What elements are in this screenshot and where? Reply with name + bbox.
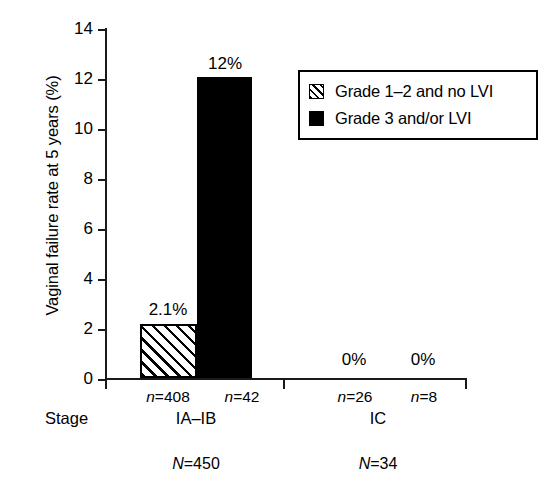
legend-label-grade3-or-lvi: Grade 3 and/or LVI — [335, 109, 471, 128]
total-value: =34 — [370, 455, 397, 472]
bar-iaib-grade3-or-lvi — [197, 77, 252, 378]
group-total-iaib: N=450 — [172, 455, 220, 473]
bar-value-label-ic-solid: 0% — [411, 350, 436, 370]
x-tick-left — [105, 380, 107, 389]
count-value: =26 — [346, 388, 372, 405]
bar-iaib-grade1-2-no-lvi — [140, 324, 197, 378]
count-value: =408 — [155, 388, 190, 405]
count-value: =8 — [419, 388, 437, 405]
y-tick-label-10: 10 — [74, 119, 93, 139]
x-axis-line — [105, 378, 467, 380]
count-label-iaib-hatched: n=408 — [146, 388, 190, 406]
count-var-n: n — [225, 388, 234, 405]
total-value: =450 — [184, 455, 220, 472]
bar-value-label-ic-hatched: 0% — [342, 350, 367, 370]
group-label-iaib: IA–IB — [176, 409, 216, 428]
y-tick-label-8: 8 — [84, 169, 93, 189]
count-label-iaib-solid: n=42 — [225, 388, 260, 406]
x-axis-title-stage: Stage — [45, 409, 88, 428]
legend-swatch-solid-icon — [309, 111, 324, 126]
count-var-n: n — [338, 388, 347, 405]
legend: Grade 1–2 and no LVI Grade 3 and/or LVI — [298, 70, 538, 140]
count-label-ic-hatched: n=26 — [338, 388, 373, 406]
bar-value-label-iaib-hatched: 2.1% — [149, 300, 188, 320]
group-label-ic: IC — [370, 409, 387, 428]
y-tick-label-2: 2 — [84, 319, 93, 339]
y-tick-label-12: 12 — [74, 69, 93, 89]
count-var-n: n — [146, 388, 155, 405]
x-tick-right — [465, 380, 467, 389]
legend-item-grade1-2-no-lvi[interactable]: Grade 1–2 and no LVI — [309, 79, 527, 103]
bar-value-label-iaib-solid: 12% — [208, 54, 242, 74]
legend-label-grade1-2-no-lvi: Grade 1–2 and no LVI — [335, 82, 493, 101]
y-axis-line — [105, 28, 107, 380]
x-tick-group-divider — [283, 380, 285, 389]
group-total-ic: N=34 — [359, 455, 398, 473]
y-tick-label-6: 6 — [84, 219, 93, 239]
y-tick-label-14: 14 — [74, 19, 93, 39]
count-label-ic-solid: n=8 — [411, 388, 437, 406]
total-var-N: N — [359, 455, 371, 472]
total-var-N: N — [172, 455, 184, 472]
count-var-n: n — [411, 388, 420, 405]
y-tick-label-0: 0 — [84, 369, 93, 389]
count-value: =42 — [233, 388, 259, 405]
legend-item-grade3-or-lvi[interactable]: Grade 3 and/or LVI — [309, 106, 527, 130]
y-tick-label-4: 4 — [84, 269, 93, 289]
y-axis-title: Vaginal failure rate at 5 years (%) — [43, 16, 62, 376]
legend-swatch-hatched-icon — [309, 84, 324, 99]
figure-bar-chart: Vaginal failure rate at 5 years (%) 14 1… — [0, 0, 553, 502]
